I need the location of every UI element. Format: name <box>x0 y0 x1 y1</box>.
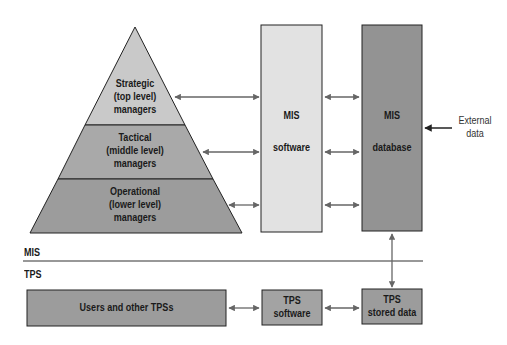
tactical-line3: managers <box>92 157 178 170</box>
strategic-line3: managers <box>101 103 170 116</box>
tactical-line2: (middle level) <box>92 144 178 157</box>
mis-software-box <box>261 25 322 232</box>
section-label-tps: TPS <box>24 268 42 281</box>
operational-line3: managers <box>92 211 178 224</box>
mis-database-label-bottom: database <box>366 141 418 154</box>
mis-database-box <box>362 25 422 231</box>
mis-software-label-bottom: software <box>265 141 317 154</box>
tactical-label: Tactical (middle level) managers <box>92 131 178 170</box>
users-other-tps-label: Users and other TPSs <box>41 301 212 314</box>
tps-stored-data-line1: TPS <box>363 293 421 306</box>
tps-software-line1: TPS <box>266 294 318 307</box>
tps-software-line2: software <box>266 307 318 320</box>
external-data-label: External data <box>454 114 497 140</box>
operational-label: Operational (lower level) managers <box>92 185 178 224</box>
section-label-mis: MIS <box>24 246 40 259</box>
tactical-line1: Tactical <box>92 131 178 144</box>
strategic-line1: Strategic <box>101 77 170 90</box>
external-data-line2: data <box>454 127 497 140</box>
mis-software-label-top: MIS <box>265 109 317 122</box>
operational-line1: Operational <box>92 185 178 198</box>
tps-stored-data-label: TPS stored data <box>363 293 421 319</box>
tps-stored-data-line2: stored data <box>363 306 421 319</box>
strategic-label: Strategic (top level) managers <box>101 77 170 116</box>
diagram-canvas <box>0 0 507 345</box>
external-data-line1: External <box>454 114 497 127</box>
operational-line2: (lower level) <box>92 198 178 211</box>
strategic-line2: (top level) <box>101 90 170 103</box>
tps-software-label: TPS software <box>266 294 318 320</box>
mis-database-label-top: MIS <box>366 109 418 122</box>
